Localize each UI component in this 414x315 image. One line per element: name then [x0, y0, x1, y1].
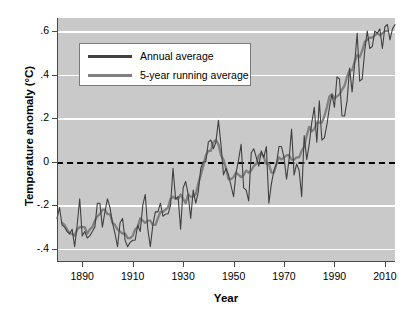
- y-axis-title: Temperature anomaly (°C): [23, 11, 35, 261]
- legend-swatch-annual-average: [88, 55, 132, 58]
- chart-legend: Annual average 5-year running average: [79, 43, 251, 86]
- y-tick-label: -.4: [9, 242, 49, 254]
- x-tick-label: 1890: [62, 270, 102, 282]
- x-tick: [183, 262, 184, 267]
- x-tick: [385, 262, 386, 267]
- x-axis-title: Year: [57, 292, 395, 304]
- y-tick-label: -.2: [9, 198, 49, 210]
- x-tick-label: 1970: [264, 270, 304, 282]
- y-tick: [52, 75, 57, 76]
- x-tick: [133, 262, 134, 267]
- x-tick: [334, 262, 335, 267]
- y-tick: [52, 31, 57, 32]
- y-tick: [52, 118, 57, 119]
- x-tick: [234, 262, 235, 267]
- temperature-anomaly-chart: Temperature anomaly (°C) .6.4.20-.2-.4 1…: [0, 0, 414, 315]
- y-tick-label: .6: [9, 24, 49, 36]
- x-tick-label: 1950: [214, 270, 254, 282]
- x-tick-label: 2010: [365, 270, 405, 282]
- legend-label-annual-average: Annual average: [140, 48, 214, 64]
- x-tick-label: 1930: [163, 270, 203, 282]
- x-tick: [284, 262, 285, 267]
- x-tick-label: 1990: [314, 270, 354, 282]
- y-tick: [52, 249, 57, 250]
- y-tick: [52, 162, 57, 163]
- y-tick-label: 0: [9, 155, 49, 167]
- y-tick: [52, 205, 57, 206]
- x-tick: [82, 262, 83, 267]
- legend-label-running-average: 5-year running average: [140, 67, 249, 83]
- legend-swatch-running-average: [88, 74, 132, 77]
- y-tick-label: .4: [9, 68, 49, 80]
- x-tick-label: 1910: [113, 270, 153, 282]
- y-tick-label: .2: [9, 111, 49, 123]
